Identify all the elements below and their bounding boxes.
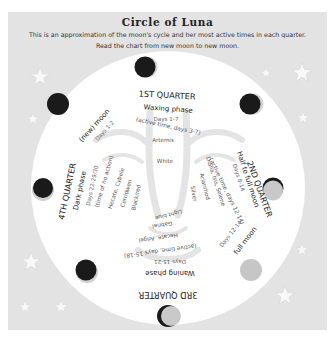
waxing-crescent-moon-icon: [240, 94, 264, 115]
star-icon: [22, 252, 41, 270]
star-icon: [276, 286, 295, 304]
waxing-crescent-moon-icon: [135, 57, 158, 78]
quarter-3-name: 3RD QUARTER: [138, 290, 197, 300]
star-icon: [31, 68, 49, 85]
luna-circle-diagram: 1ST QUARTER Waxing phase Days 1-7 (activ…: [0, 0, 335, 338]
star-icon: [19, 301, 31, 312]
star-icon: [292, 63, 312, 82]
star-icon: [27, 113, 38, 124]
quarter-3-phase: Waning phase: [145, 269, 194, 277]
quarter-1-color: White: [157, 158, 174, 164]
full-moon-icon: [240, 259, 262, 281]
new-moon-icon: [47, 93, 69, 115]
star-icon: [261, 68, 270, 77]
star-icon: [55, 300, 68, 312]
quarter-3-days: Days 15-21: [154, 258, 186, 265]
star-icon: [296, 244, 308, 255]
star-icon: [297, 112, 309, 123]
quarter-1-deity: Artemis: [152, 137, 174, 143]
